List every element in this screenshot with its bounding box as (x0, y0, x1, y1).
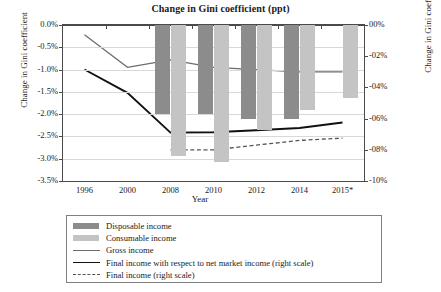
y-axis-left-tick (59, 136, 63, 137)
y-gridline (63, 181, 364, 182)
bar-consumable-income-2015* (343, 25, 358, 98)
y-axis-right-tick-label: 00% (369, 19, 409, 29)
bar-disposable-income-2012 (241, 25, 256, 119)
chart-legend: Disposable incomeConsumable incomeGross … (66, 215, 382, 283)
bar-disposable-income-2008 (155, 25, 170, 114)
legend-label: Final income with respect to net market … (106, 258, 313, 268)
x-axis-tick (149, 25, 150, 29)
y-axis-right-tick (364, 25, 368, 26)
y-axis-right-tick-label: -02% (369, 50, 409, 60)
legend-label: Consumable income (106, 233, 176, 243)
legend-swatch-line-thin-icon (73, 245, 101, 256)
x-axis-tick (192, 25, 193, 29)
legend-swatch-line-dashed-icon (73, 269, 101, 280)
legend-item-final-income-right-scale[interactable]: Final income (right scale) (73, 269, 375, 281)
y-axis-right-tick (364, 119, 368, 120)
plot-area: 0.0%-0.5%-1.0%-1.5%-2.0%-2.5%-3.0%-3.5%0… (62, 24, 365, 181)
y-axis-left-tick-label: -3.0% (18, 153, 58, 163)
legend-label: Gross income (106, 245, 154, 255)
y-axis-left-tick (59, 25, 63, 26)
legend-item-final-income-with-respect-to-net-market-income-right-scale[interactable]: Final income with respect to net market … (73, 257, 375, 269)
y-axis-right-tick-label: -04% (369, 81, 409, 91)
y-axis-left-tick-label: -3.5% (18, 175, 58, 185)
legend-swatch-line-thick-icon (73, 257, 101, 268)
legend-label: Final income (right scale) (106, 270, 195, 280)
y-axis-left-tick (59, 181, 63, 182)
bar-consumable-income-2014 (300, 25, 315, 110)
legend-item-gross-income[interactable]: Gross income (73, 244, 375, 256)
legend-label: Disposable income (106, 221, 172, 231)
y-axis-left-tick-label: -0.5% (18, 41, 58, 51)
y-axis-left-tick-label: -2.0% (18, 108, 58, 118)
chart-title: Change in Gini coefficient (ppt) (0, 3, 441, 14)
y-axis-left-tick-label: -1.0% (18, 64, 58, 74)
x-axis-tick-label: 2015* (313, 185, 373, 195)
y-axis-right-tick-label: -06% (369, 113, 409, 123)
bar-consumable-income-2010 (214, 25, 229, 162)
y-axis-right-tick (364, 87, 368, 88)
bar-consumable-income-2008 (171, 25, 186, 156)
y-axis-left-tick (59, 47, 63, 48)
x-axis-tick (235, 25, 236, 29)
y-axis-left-tick-label: -1.5% (18, 86, 58, 96)
chart-figure: Change in Gini coefficient (ppt) Change … (0, 0, 441, 292)
y-axis-left-tick-label: -2.5% (18, 130, 58, 140)
y-axis-left-tick (59, 159, 63, 160)
legend-item-consumable-income[interactable]: Consumable income (73, 232, 375, 244)
y-axis-right-tick-label: -08% (369, 144, 409, 154)
line-final-income-right-scale (171, 138, 343, 150)
bar-disposable-income-2010 (198, 25, 213, 114)
y-axis-left-tick (59, 70, 63, 71)
x-axis-tick (321, 25, 322, 29)
x-axis-tick (106, 25, 107, 29)
bar-consumable-income-2012 (257, 25, 272, 130)
y-axis-left-tick-label: 0.0% (18, 19, 58, 29)
y-axis-right-tick (364, 150, 368, 151)
legend-swatch-swatch-dark-icon (73, 221, 101, 232)
y-axis-right-title: Change in Gini coefficient: Final income (423, 0, 433, 114)
y-axis-right-tick (364, 181, 368, 182)
y-axis-right-tick (364, 56, 368, 57)
legend-item-disposable-income[interactable]: Disposable income (73, 220, 375, 232)
y-axis-right-tick-label: -10% (369, 175, 409, 185)
bar-disposable-income-2014 (284, 25, 299, 119)
x-axis-title: Year (0, 194, 400, 204)
legend-swatch-swatch-light-icon (73, 233, 101, 244)
y-axis-left-tick (59, 114, 63, 115)
x-axis-tick (278, 25, 279, 29)
y-axis-left-tick (59, 92, 63, 93)
